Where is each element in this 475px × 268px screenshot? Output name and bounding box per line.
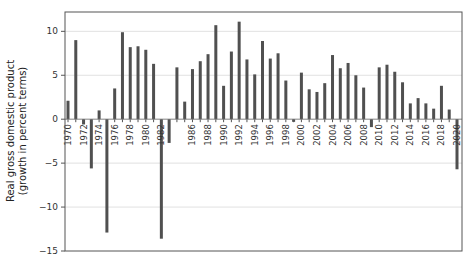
x-tick-label: 2000 [296,124,306,146]
bar-2010 [378,67,381,119]
x-tick-label: 1988 [203,124,213,146]
x-tick-label: 1994 [250,124,260,146]
x-tick-label: 1974 [94,124,104,146]
bar-1976 [113,88,116,119]
x-tick-label: 1982 [156,124,166,146]
y-axis-ticks: 1050−5−10−15 [39,26,65,256]
bar-1981 [152,64,155,119]
y-tick-label: −5 [45,158,58,168]
bar-1977 [121,32,124,119]
y-tick-label: 0 [52,114,58,124]
bar-2019 [448,110,451,120]
bar-2014 [409,103,412,119]
x-axis-ticks: 1970197219741976197819801982198619881990… [63,119,462,146]
y-tick-label: 10 [47,26,59,36]
x-tick-label: 2014 [405,124,415,146]
bar-1983 [168,119,171,143]
bar-2004 [331,55,334,119]
y-axis-title-line-1: Real gross domestic product [5,60,16,202]
x-tick-label: 2018 [436,124,446,146]
y-tick-label: 5 [52,70,58,80]
bar-2013 [401,82,404,119]
y-axis-title-line-2: (growth in percent terms) [17,67,28,196]
y-tick-label: −10 [39,202,58,212]
bar-1979 [137,46,140,119]
bar-2012 [393,72,396,119]
bar-1980 [144,50,147,119]
bar-1993 [245,59,248,119]
bar-1989 [214,25,217,119]
bar-1985 [183,102,186,120]
bar-1992 [238,22,241,120]
bar-1987 [199,61,202,119]
bar-2002 [315,92,318,119]
x-tick-label: 1980 [141,124,151,146]
x-tick-label: 2008 [359,124,369,146]
x-tick-label: 1986 [187,124,197,146]
bar-2008 [362,88,365,120]
bar-1996 [269,59,272,120]
bar-1998 [284,81,287,120]
bar-2006 [347,63,350,119]
bar-2001 [308,89,311,119]
y-tick-label: −15 [39,246,58,256]
bar-1971 [74,40,77,119]
bar-1991 [230,52,233,120]
x-tick-label: 1978 [125,124,135,146]
bar-1973 [90,119,93,168]
bar-1986 [191,69,194,119]
bar-1974 [98,110,101,119]
bar-2017 [432,109,435,120]
y-axis-title: Real gross domestic product (growth in p… [5,60,28,202]
x-tick-label: 2004 [328,124,338,146]
x-tick-label: 2020 [452,124,462,146]
x-tick-label: 2010 [374,124,384,146]
bar-2000 [300,73,303,120]
x-tick-label: 2006 [343,124,353,146]
bar-1970 [67,101,70,119]
bar-2003 [323,83,326,119]
x-tick-label: 2002 [312,124,322,146]
bar-2015 [417,98,420,119]
bar-1988 [207,54,210,119]
bar-1975 [105,119,108,232]
bar-1994 [253,74,256,119]
x-tick-label: 1976 [110,124,120,146]
x-tick-label: 1972 [79,124,89,146]
bar-1984 [175,67,178,119]
gdp-growth-chart: 1970197219741976197819801982198619881990… [0,0,475,268]
bar-2018 [440,86,443,119]
x-tick-label: 2016 [421,124,431,146]
x-tick-label: 2012 [390,124,400,146]
x-tick-label: 1998 [281,124,291,146]
bar-2016 [424,103,427,119]
x-tick-label: 1996 [265,124,275,146]
bar-1978 [129,47,132,119]
bar-2005 [339,68,342,119]
bar-1995 [261,41,264,119]
x-tick-label: 1990 [219,124,229,146]
bar-2011 [385,65,388,119]
bar-2007 [354,75,357,119]
x-tick-label: 1992 [234,124,244,146]
bar-1990 [222,86,225,119]
bar-1997 [277,53,280,119]
